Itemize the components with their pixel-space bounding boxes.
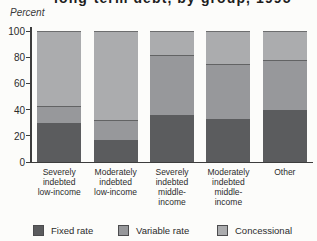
y-tick-mark — [26, 109, 30, 110]
plot-area — [31, 31, 313, 162]
y-tick-label: 100 — [0, 26, 25, 37]
legend-item: Fixed rate — [33, 225, 93, 236]
category-labels: Severelyindebtedlow-incomeModeratelyinde… — [31, 167, 313, 207]
y-tick-label: 0 — [0, 157, 25, 168]
y-tick-label: 40 — [0, 104, 25, 115]
category-label: Severelyindebtedlow-income — [31, 167, 87, 207]
y-tick-mark — [26, 57, 30, 58]
category-label-line: Severely — [31, 167, 87, 177]
legend-item: Concessional — [217, 225, 292, 236]
legend-item: Variable rate — [118, 225, 189, 236]
bar-segment-fixed-rate — [37, 123, 81, 162]
y-tick-label: 20 — [0, 130, 25, 141]
legend-label: Variable rate — [136, 225, 189, 236]
bar-segment-variable-rate — [94, 120, 138, 140]
bar-segment-variable-rate — [263, 60, 307, 110]
y-tick-mark — [26, 135, 30, 136]
category-label: Moderatelyindebtedlow-income — [87, 167, 143, 207]
category-label: Moderatelyindebtedmiddle-income — [200, 167, 256, 207]
y-tick-mark — [26, 31, 30, 32]
stacked-bar — [206, 31, 250, 162]
legend-swatch — [118, 225, 129, 236]
stacked-bar — [263, 31, 307, 162]
bar-slot — [31, 31, 87, 162]
bar-segment-concessional — [94, 31, 138, 120]
category-label-line: low-income — [31, 187, 87, 197]
category-label-line: indebted — [87, 177, 143, 187]
chart-page: long-term debt, by group, 1995 Percent 0… — [0, 0, 317, 241]
chart-title-cropped: long-term debt, by group, 1995 — [54, 0, 317, 6]
bar-segment-concessional — [206, 31, 250, 64]
legend-label: Fixed rate — [51, 225, 93, 236]
stacked-bar — [94, 31, 138, 162]
bar-slot — [87, 31, 143, 162]
bar-segment-concessional — [37, 31, 81, 106]
bar-segment-fixed-rate — [206, 119, 250, 162]
bar-slot — [200, 31, 256, 162]
legend-swatch — [33, 225, 44, 236]
category-label-line: indebted — [200, 177, 256, 187]
chart-title-text: long-term debt, by group, 1995 — [54, 0, 317, 6]
category-label-line: Moderately — [200, 167, 256, 177]
category-label: Severelyindebtedmiddle-income — [144, 167, 200, 207]
category-label: Other — [257, 167, 313, 207]
bar-segment-variable-rate — [150, 55, 194, 115]
legend: Fixed rateVariable rateConcessional — [0, 225, 317, 239]
category-label-line: low-income — [87, 187, 143, 197]
category-label-line: Other — [257, 167, 313, 177]
category-label-line: income — [144, 197, 200, 207]
category-label-line: indebted — [144, 177, 200, 187]
y-tick-label: 80 — [0, 52, 25, 63]
bar-segment-fixed-rate — [94, 140, 138, 162]
bar-segment-variable-rate — [206, 64, 250, 119]
bar-slot — [144, 31, 200, 162]
bar-segment-concessional — [150, 31, 194, 55]
category-label-line: indebted — [31, 177, 87, 187]
category-label-line: middle- — [144, 187, 200, 197]
bar-segment-variable-rate — [37, 106, 81, 123]
category-label-line: income — [200, 197, 256, 207]
legend-swatch — [217, 225, 228, 236]
stacked-bar — [150, 31, 194, 162]
category-label-line: middle- — [200, 187, 256, 197]
bar-segment-concessional — [263, 31, 307, 60]
bar-slot — [257, 31, 313, 162]
bar-segment-fixed-rate — [150, 115, 194, 162]
legend-label: Concessional — [235, 225, 292, 236]
y-tick-mark — [26, 162, 30, 163]
category-label-line: Moderately — [87, 167, 143, 177]
y-tick-mark — [26, 83, 30, 84]
y-tick-label: 60 — [0, 78, 25, 89]
bar-segment-fixed-rate — [263, 110, 307, 162]
category-label-line: Severely — [144, 167, 200, 177]
stacked-bar — [37, 31, 81, 162]
y-axis-unit-label: Percent — [10, 7, 44, 18]
